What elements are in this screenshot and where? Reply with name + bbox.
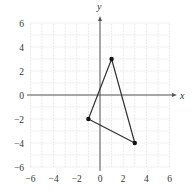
coordinate-plane-chart: −6−4−20246−6−4−20246 x y <box>0 0 193 193</box>
x-tick-label: 2 <box>121 174 126 184</box>
y-tick-label: −6 <box>14 163 24 173</box>
y-tick-label: 4 <box>19 43 24 53</box>
y-tick-label: −2 <box>14 115 24 125</box>
y-tick-label: −4 <box>14 139 24 149</box>
x-axis-arrow-icon <box>172 93 177 97</box>
x-tick-label: 6 <box>167 174 172 184</box>
y-axis-label: y <box>96 1 102 12</box>
tick-labels: −6−4−20246−6−4−20246 <box>14 19 172 185</box>
x-tick-label: 0 <box>98 174 103 184</box>
axes <box>27 16 177 171</box>
x-axis-label: x <box>179 90 185 101</box>
y-tick-label: 0 <box>19 91 24 101</box>
y-axis-arrow-icon <box>98 16 102 21</box>
x-tick-label: −2 <box>72 174 82 184</box>
y-tick-label: 6 <box>19 19 24 29</box>
vertex-point <box>86 117 90 121</box>
y-tick-label: 2 <box>19 67 24 77</box>
vertex-point <box>133 141 137 145</box>
x-tick-label: −6 <box>25 174 35 184</box>
x-tick-label: 4 <box>144 174 149 184</box>
x-tick-label: −4 <box>49 174 59 184</box>
vertex-point <box>109 57 113 61</box>
